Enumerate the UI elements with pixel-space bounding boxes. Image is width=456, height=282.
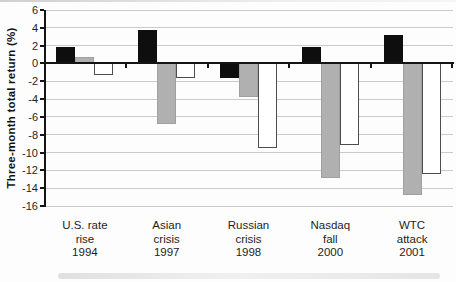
gridline--4: [44, 99, 453, 100]
x-axis-category-labels: U.S. raterise1994Asiancrisis1997Russianc…: [44, 219, 453, 263]
gridline--8: [44, 134, 453, 135]
gray-bar-2: [157, 63, 176, 124]
white-bar-5: [422, 63, 441, 173]
category-tick-4: [370, 63, 372, 68]
white-bar-3: [258, 63, 277, 148]
gridline--12: [44, 170, 453, 171]
category-label-line: WTC: [371, 219, 453, 233]
white-bar-2: [176, 63, 195, 77]
category-label-line: 1998: [208, 246, 290, 260]
category-label-3: Russiancrisis1998: [208, 219, 290, 260]
category-label-line: crisis: [208, 233, 290, 247]
black-bar-1: [56, 47, 75, 64]
y-tick-label--2: -2: [0, 75, 38, 87]
gridline--6: [44, 116, 453, 117]
category-label-2: Asiancrisis1997: [126, 219, 208, 260]
category-label-line: crisis: [126, 233, 208, 247]
y-tick-label-0: 0: [0, 57, 38, 69]
y-axis-line: [44, 10, 46, 207]
category-label-line: fall: [289, 233, 371, 247]
y-axis-tick-labels: 6420-2-4-6-8-10-12-14-16: [0, 0, 41, 215]
category-label-line: rise: [44, 233, 126, 247]
category-label-4: Nasdaqfall2000: [289, 219, 371, 260]
y-tick-label--14: -14: [0, 182, 38, 194]
plot-area: [44, 10, 453, 206]
category-label-1: U.S. raterise1994: [44, 219, 126, 260]
gray-bar-4: [321, 63, 340, 178]
category-label-line: 1994: [44, 246, 126, 260]
category-label-line: 2000: [289, 246, 371, 260]
bar-chart-figure: Three-month total return (%) 6420-2-4-6-…: [0, 0, 456, 282]
scan-artifact-bottom: [58, 273, 440, 279]
category-tick-3: [288, 63, 290, 68]
y-tick-label--10: -10: [0, 147, 38, 159]
gray-bar-3: [239, 63, 258, 97]
y-tick-label-6: 6: [0, 4, 38, 16]
category-label-line: attack: [371, 233, 453, 247]
gridline--16: [44, 206, 453, 207]
black-bar-3: [220, 63, 239, 77]
black-bar-4: [302, 47, 321, 64]
gray-bar-5: [403, 63, 422, 195]
zero-axis-line: [44, 62, 454, 64]
category-tick-1: [125, 63, 127, 68]
y-tick-label--6: -6: [0, 111, 38, 123]
y-tick-label--16: -16: [0, 200, 38, 212]
black-bar-2: [138, 30, 157, 64]
category-tick-5: [451, 63, 453, 68]
white-bar-4: [340, 63, 359, 145]
category-label-5: WTCattack2001: [371, 219, 453, 260]
category-label-line: Asian: [126, 219, 208, 233]
category-label-line: U.S. rate: [44, 219, 126, 233]
gridline--14: [44, 188, 453, 189]
category-label-line: Russian: [208, 219, 290, 233]
category-label-line: 1997: [126, 246, 208, 260]
y-tick-label--4: -4: [0, 93, 38, 105]
category-label-line: Nasdaq: [289, 219, 371, 233]
y-tick-label--8: -8: [0, 129, 38, 141]
y-tick-label-2: 2: [0, 40, 38, 52]
gridline-4: [44, 27, 453, 28]
scan-artifact-top: [0, 0, 456, 2]
y-tick-label--12: -12: [0, 164, 38, 176]
white-bar-1: [94, 63, 113, 75]
category-label-line: 2001: [371, 246, 453, 260]
black-bar-5: [384, 35, 403, 64]
category-tick-2: [207, 63, 209, 68]
y-tick-label-4: 4: [0, 22, 38, 34]
gridline-6: [44, 10, 453, 11]
gridline--10: [44, 152, 453, 153]
